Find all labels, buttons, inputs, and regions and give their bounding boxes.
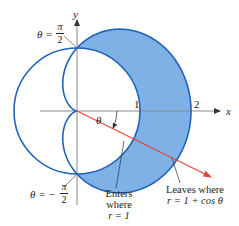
tick-1-label: 1 (134, 99, 140, 110)
enters-line3: r = 1 (100, 210, 138, 221)
x-axis-label: x (226, 106, 231, 117)
y-axis-label: y (73, 9, 78, 20)
enters-line2: where (100, 199, 138, 210)
bottom-angle-num: π (61, 182, 66, 192)
top-angle-den: 2 (58, 35, 63, 45)
leaves-line2: r = 1 + cos θ (154, 195, 236, 206)
bottom-angle-den: 2 (62, 195, 67, 205)
bottom-angle-lhs: θ = − (30, 189, 56, 200)
theta-label: θ (96, 115, 101, 126)
top-angle-lhs: θ = (37, 29, 53, 40)
enters-line1: Enters (100, 188, 138, 199)
bottom-angle-fraction: π 2 (60, 182, 68, 205)
angle-arc-icon (113, 111, 117, 128)
leaves-label: Leaves where r = 1 + cos θ (154, 184, 236, 206)
top-angle-num: π (57, 22, 62, 32)
enters-label: Enters where r = 1 (100, 188, 138, 221)
top-angle-fraction: π 2 (56, 22, 64, 45)
leader-top (64, 36, 76, 47)
leaves-line1: Leaves where (154, 184, 236, 195)
tick-2-label: 2 (194, 99, 200, 110)
